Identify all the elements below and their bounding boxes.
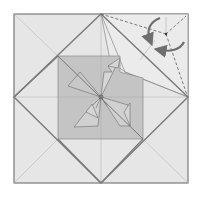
- diagram-canvas: [0, 0, 201, 198]
- origami-diagram: Square base with diamond outline, shaded…: [0, 0, 201, 198]
